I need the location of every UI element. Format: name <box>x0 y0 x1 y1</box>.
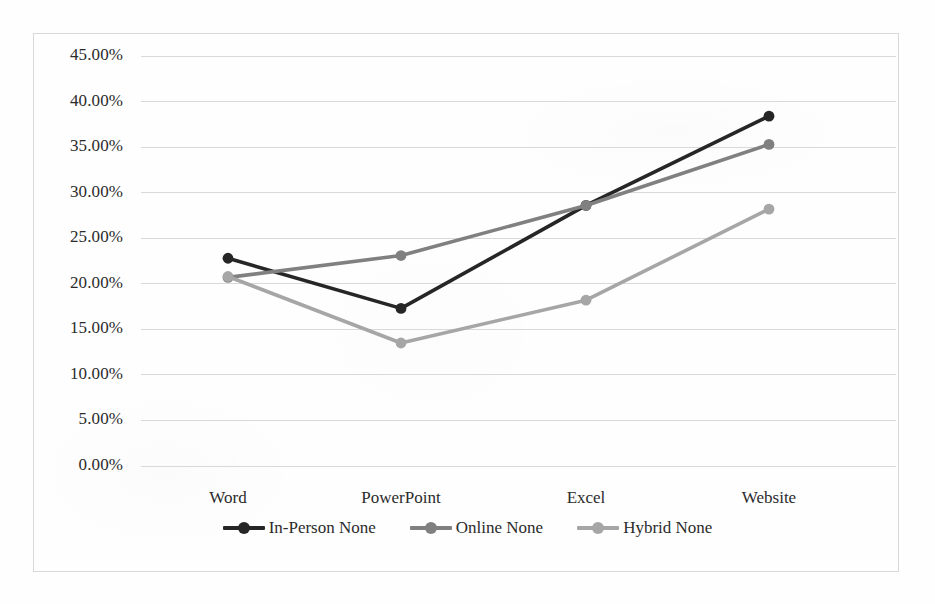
x-axis-tick-label: Website <box>689 488 849 508</box>
data-point <box>581 200 592 211</box>
series-3 <box>223 204 775 349</box>
data-point <box>223 271 234 282</box>
gridlines <box>141 56 896 466</box>
legend-dot-icon <box>592 522 604 534</box>
legend-entry[interactable]: Hybrid None <box>577 518 712 538</box>
data-point <box>396 250 407 261</box>
series-2 <box>223 139 775 283</box>
legend-marker-icon <box>223 521 265 535</box>
data-point <box>764 204 775 215</box>
series-line <box>228 116 769 308</box>
x-axis-tick-label: Excel <box>506 488 666 508</box>
chart-page: 0.00%5.00%10.00%15.00%20.00%25.00%30.00%… <box>0 0 935 604</box>
series-layer <box>223 111 775 349</box>
legend-label: Hybrid None <box>623 518 712 538</box>
data-point <box>764 139 775 150</box>
data-point <box>396 303 407 314</box>
legend-entry[interactable]: Online None <box>410 518 543 538</box>
x-axis-tick-label: PowerPoint <box>321 488 481 508</box>
data-point <box>581 295 592 306</box>
legend-label: In-Person None <box>269 518 376 538</box>
legend-marker-icon <box>577 521 619 535</box>
data-point <box>764 111 775 122</box>
data-point <box>396 338 407 349</box>
chart-legend: In-Person NoneOnline NoneHybrid None <box>0 518 935 538</box>
data-point <box>223 253 234 264</box>
legend-marker-icon <box>410 521 452 535</box>
legend-entry[interactable]: In-Person None <box>223 518 376 538</box>
legend-dot-icon <box>238 522 250 534</box>
x-axis-tick-label: Word <box>148 488 308 508</box>
chart-frame: 0.00%5.00%10.00%15.00%20.00%25.00%30.00%… <box>33 33 899 572</box>
legend-label: Online None <box>456 518 543 538</box>
legend-dot-icon <box>425 522 437 534</box>
series-line <box>228 144 769 277</box>
